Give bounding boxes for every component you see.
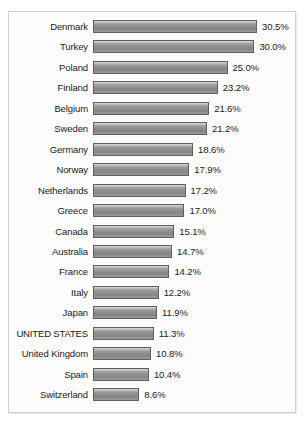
bar xyxy=(93,368,149,381)
bar-value-label: 14.7% xyxy=(177,245,203,259)
bar-row: Italy12.2% xyxy=(9,286,295,300)
bar xyxy=(93,102,209,115)
bar-category-label: Australia xyxy=(9,245,88,259)
bar xyxy=(93,81,218,94)
bar-category-label: Germany xyxy=(9,143,88,157)
bar-category-label: Belgium xyxy=(9,102,88,116)
bar xyxy=(93,388,139,401)
bar xyxy=(93,20,257,33)
bar-row: Greece17.0% xyxy=(9,204,295,218)
bar xyxy=(93,204,184,217)
bar-value-label: 14.2% xyxy=(174,265,200,279)
chart-frame: Denmark30.5%Turkey30.0%Poland25.0%Finlan… xyxy=(8,11,296,413)
bar-row: Netherlands17.2% xyxy=(9,184,295,198)
bar xyxy=(93,163,189,176)
bar xyxy=(93,327,154,340)
bar-value-label: 23.2% xyxy=(223,81,249,95)
bar-value-label: 15.1% xyxy=(179,225,205,239)
bar-row: Norway17.9% xyxy=(9,163,295,177)
bar xyxy=(93,184,186,197)
bar-value-label: 25.0% xyxy=(233,61,259,75)
bar-category-label: Spain xyxy=(9,368,88,382)
bar-row: Germany18.6% xyxy=(9,143,295,157)
bar xyxy=(93,122,207,135)
bar-value-label: 10.4% xyxy=(154,368,180,382)
bar-category-label: Turkey xyxy=(9,40,88,54)
bar-value-label: 12.2% xyxy=(164,286,190,300)
bar xyxy=(93,143,193,156)
bar-value-label: 21.6% xyxy=(214,102,240,116)
bar-row: Australia14.7% xyxy=(9,245,295,259)
bar-row: Poland25.0% xyxy=(9,61,295,75)
bar-row: Switzerland8.6% xyxy=(9,388,295,402)
bar xyxy=(93,245,172,258)
bar-category-label: Poland xyxy=(9,61,88,75)
bar-row: United Kingdom10.8% xyxy=(9,347,295,361)
bar-category-label: Norway xyxy=(9,163,88,177)
bar-category-label: Netherlands xyxy=(9,184,88,198)
bar-value-label: 11.9% xyxy=(162,306,188,320)
bar-category-label: Italy xyxy=(9,286,88,300)
bar-row: Denmark30.5% xyxy=(9,20,295,34)
bar-row: Sweden21.2% xyxy=(9,122,295,136)
bar-category-label: Denmark xyxy=(9,20,88,34)
bar-value-label: 8.6% xyxy=(144,388,165,402)
bar-category-label: Sweden xyxy=(9,122,88,136)
bar xyxy=(93,265,169,278)
bar-category-label: United Kingdom xyxy=(9,347,88,361)
bar-value-label: 17.2% xyxy=(191,184,217,198)
bar-category-label: Switzerland xyxy=(9,388,88,402)
bar-value-label: 21.2% xyxy=(212,122,238,136)
bar xyxy=(93,306,157,319)
bar-row: Belgium21.6% xyxy=(9,102,295,116)
bar-value-label: 17.9% xyxy=(194,163,220,177)
bar-category-label: Canada xyxy=(9,225,88,239)
bar xyxy=(93,347,151,360)
bar-category-label: UNITED STATES xyxy=(9,327,88,341)
bar xyxy=(93,286,159,299)
bar-value-label: 30.5% xyxy=(262,20,288,34)
bar-row: Finland23.2% xyxy=(9,81,295,95)
bar-value-label: 18.6% xyxy=(198,143,224,157)
bar-row: Turkey30.0% xyxy=(9,40,295,54)
bar-row: Japan11.9% xyxy=(9,306,295,320)
bar xyxy=(93,61,228,74)
bar-value-label: 30.0% xyxy=(259,40,285,54)
bar-category-label: Finland xyxy=(9,81,88,95)
bar-row: Spain10.4% xyxy=(9,368,295,382)
bar-value-label: 10.8% xyxy=(156,347,182,361)
bar xyxy=(93,40,254,53)
bar-category-label: Japan xyxy=(9,306,88,320)
bar-value-label: 11.3% xyxy=(159,327,185,341)
bar-row: Canada15.1% xyxy=(9,225,295,239)
bar-value-label: 17.0% xyxy=(189,204,215,218)
bar xyxy=(93,225,174,238)
bar-category-label: Greece xyxy=(9,204,88,218)
bar-category-label: France xyxy=(9,265,88,279)
bar-row: France14.2% xyxy=(9,265,295,279)
bar-chart-plot-area: Denmark30.5%Turkey30.0%Poland25.0%Finlan… xyxy=(9,12,295,412)
bar-row: UNITED STATES11.3% xyxy=(9,327,295,341)
